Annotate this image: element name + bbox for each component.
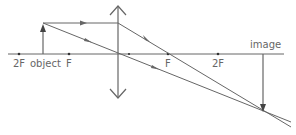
right-f-label: F [165,59,171,69]
left-2f-point [18,53,21,56]
image-arrow [260,54,266,112]
left-f-label: F [66,59,72,69]
right-2f-label: 2F [212,59,224,69]
object-arrow [40,24,46,54]
left-f-point [68,53,71,56]
converging-lens [110,6,126,98]
object-label: object [30,59,61,69]
image-label: image [250,40,281,50]
optical-center-point [128,53,130,55]
ray-through-centre [43,23,291,122]
ray-parallel [43,21,291,128]
left-2f-label: 2F [13,59,25,69]
right-2f-point [217,53,220,56]
